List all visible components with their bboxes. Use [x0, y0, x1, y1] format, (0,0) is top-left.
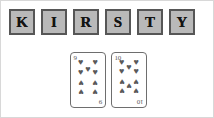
letter-tile-r[interactable]: R [73, 9, 99, 35]
heart-pip-icon: ♥ [134, 86, 139, 95]
heart-pip-icon: ♥ [119, 76, 124, 85]
heart-pip-icon: ♥ [93, 87, 98, 96]
letter-tile-k[interactable]: K [9, 9, 35, 35]
heart-pip-icon: ♥ [85, 64, 90, 73]
heart-pip-icon: ♥ [93, 77, 98, 86]
game-scene: K I R S T Y 9 9 ♥♥♥♥♥♥♥♥♥ 10 10 ♥♥♥♥♥♥♥♥… [0, 0, 214, 118]
letter-tile-label: Y [177, 15, 188, 30]
letter-tile-row: K I R S T Y [9, 9, 195, 35]
heart-pip-icon: ♥ [134, 67, 139, 76]
letter-tile-i[interactable]: I [41, 9, 67, 35]
heart-pip-icon: ♥ [78, 77, 83, 86]
heart-pip-icon: ♥ [134, 76, 139, 85]
letter-tile-label: T [145, 15, 155, 30]
heart-pip-icon: ♥ [78, 87, 83, 96]
letter-tile-label: R [81, 15, 92, 30]
playing-card-row: 9 9 ♥♥♥♥♥♥♥♥♥ 10 10 ♥♥♥♥♥♥♥♥♥♥ [70, 52, 147, 108]
heart-pip-icon: ♥ [126, 80, 131, 89]
letter-tile-s[interactable]: S [105, 9, 131, 35]
letter-tile-label: K [16, 15, 28, 30]
letter-tile-label: S [114, 15, 122, 30]
card-pip-area-nine: ♥♥♥♥♥♥♥♥♥ [74, 60, 102, 100]
letter-tile-label: I [51, 15, 57, 30]
heart-pip-icon: ♥ [78, 68, 83, 77]
card-pip-area-ten: ♥♥♥♥♥♥♥♥♥♥ [115, 60, 143, 100]
heart-pip-icon: ♥ [119, 86, 124, 95]
letter-tile-y[interactable]: Y [169, 9, 195, 35]
playing-card-ten-of-hearts[interactable]: 10 10 ♥♥♥♥♥♥♥♥♥♥ [111, 52, 147, 108]
heart-pip-icon: ♥ [119, 67, 124, 76]
playing-card-nine-of-hearts[interactable]: 9 9 ♥♥♥♥♥♥♥♥♥ [70, 52, 106, 108]
heart-pip-icon: ♥ [126, 63, 131, 72]
heart-pip-icon: ♥ [93, 68, 98, 77]
letter-tile-t[interactable]: T [137, 9, 163, 35]
